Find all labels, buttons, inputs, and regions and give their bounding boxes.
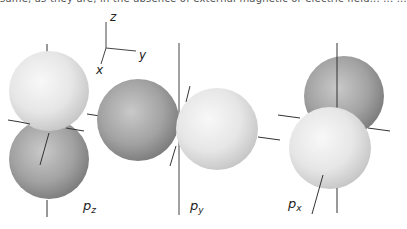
z-axis-label: z: [109, 10, 117, 24]
pz-label: pz: [82, 198, 96, 215]
py-right-lobe: [176, 88, 258, 170]
pz-orbital: pz: [8, 44, 96, 217]
py-left-lobe: [97, 79, 179, 161]
py-orbital: py: [87, 43, 280, 215]
x-axis-label: x: [95, 63, 104, 77]
py-label: py: [189, 198, 204, 215]
y-axis-label: y: [138, 48, 147, 62]
px-label: px: [287, 196, 302, 213]
pz-upper-lobe: [9, 51, 89, 131]
px-orbital: px: [278, 43, 390, 214]
px-front-lobe: [289, 107, 371, 189]
axes-indicator: z y x: [95, 10, 147, 77]
